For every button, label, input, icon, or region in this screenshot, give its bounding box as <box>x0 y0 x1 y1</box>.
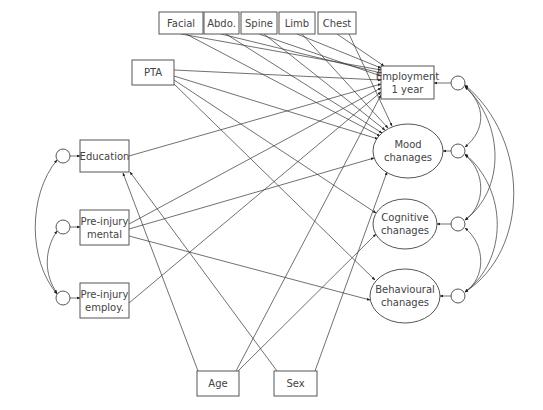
svg-text:chanages: chanages <box>381 297 429 308</box>
edge-sex-education <box>130 172 277 371</box>
cov-mood-behavioural <box>465 154 497 292</box>
left-error-arrows <box>70 156 80 298</box>
right-error-arrows <box>434 83 451 296</box>
svg-text:mental: mental <box>87 229 122 240</box>
cov-cognitive-behavioural <box>465 228 481 292</box>
error-terms-left <box>56 149 70 305</box>
svg-text:Employment: Employment <box>376 71 439 82</box>
node-preinjury-mental: Pre-injury mental <box>80 210 129 245</box>
node-pta: PTA <box>132 60 174 85</box>
node-preinjury-employ: Pre-injury employ. <box>80 283 129 318</box>
svg-text:Facial: Facial <box>167 18 195 29</box>
edge-facial-employment <box>181 34 381 70</box>
error-circle-education <box>56 149 70 163</box>
error-circle-mood <box>451 144 465 158</box>
cov-education-employ <box>35 160 57 294</box>
sem-diagram: Facial Abdo. Spine Limb Chest PTA Educat… <box>0 0 543 410</box>
svg-text:Education: Education <box>80 151 130 162</box>
edge-age-education <box>123 173 198 371</box>
right-covariances <box>465 85 514 292</box>
svg-text:Pre-injury: Pre-injury <box>81 216 129 227</box>
edge-sex-mood <box>315 172 387 371</box>
svg-text:Age: Age <box>208 378 227 389</box>
node-education: Education <box>80 140 130 172</box>
edge-mental-employment <box>129 88 381 224</box>
cov-mood-cognitive <box>465 155 481 220</box>
edge-mental-behavioural <box>129 236 370 300</box>
node-spine: Spine <box>241 12 277 34</box>
edge-pta-behavioural <box>174 84 375 280</box>
node-sex: Sex <box>274 371 317 396</box>
left-covariances <box>35 160 57 294</box>
cov-employment-mood <box>465 87 481 147</box>
svg-text:employ.: employ. <box>85 302 124 313</box>
error-circle-behavioural <box>451 289 465 303</box>
edge-chest-employment <box>337 34 384 66</box>
svg-text:Sex: Sex <box>286 378 304 389</box>
error-circle-employ <box>56 291 70 305</box>
edge-pta-mood <box>174 76 378 139</box>
edge-employ-employment <box>129 92 381 303</box>
error-circle-cognitive <box>451 217 465 231</box>
node-chest: Chest <box>318 12 356 34</box>
cov-employment-cognitive <box>465 86 495 220</box>
edge-age-employment <box>236 95 381 371</box>
edge-education-employment <box>129 84 381 156</box>
edge-mental-mood <box>129 158 374 229</box>
svg-text:1 year: 1 year <box>392 84 425 95</box>
svg-text:Pre-injury: Pre-injury <box>81 289 129 300</box>
cov-mental-employ <box>47 231 57 293</box>
svg-text:Limb: Limb <box>285 18 309 29</box>
error-circle-mental <box>56 220 70 234</box>
node-cognitive: Cognitive chanages <box>373 199 437 249</box>
edge-pta-cognitive <box>174 80 376 213</box>
svg-text:PTA: PTA <box>144 67 162 78</box>
edge-pta-employment <box>174 70 381 80</box>
svg-text:chanages: chanages <box>384 152 432 163</box>
error-terms-right <box>451 76 465 303</box>
svg-text:chanages: chanages <box>381 225 429 236</box>
edge-spine-mood <box>264 34 385 130</box>
edge-abdo-employment <box>221 34 381 73</box>
node-facial: Facial <box>159 12 203 34</box>
node-limb: Limb <box>279 12 315 34</box>
error-circle-employment <box>451 76 465 90</box>
svg-text:Mood: Mood <box>394 139 421 150</box>
edge-age-cognitive <box>238 234 376 371</box>
node-behavioural: Behavioural chanages <box>370 269 440 323</box>
svg-text:Spine: Spine <box>245 18 273 29</box>
node-mood: Mood chanages <box>373 124 443 178</box>
svg-text:Abdo.: Abdo. <box>207 18 236 29</box>
edge-spine-employment <box>259 34 381 76</box>
node-employment: Employment 1 year <box>376 66 439 99</box>
node-abdo: Abdo. <box>204 12 239 34</box>
node-age: Age <box>197 371 239 396</box>
svg-text:Chest: Chest <box>323 18 352 29</box>
svg-text:Behavioural: Behavioural <box>375 284 435 295</box>
svg-text:Cognitive: Cognitive <box>381 212 428 223</box>
